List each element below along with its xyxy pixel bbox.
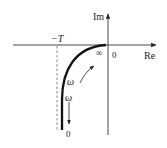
minus-t-label: −T <box>51 33 65 44</box>
omega-label-lower: ω <box>65 92 72 103</box>
im-axis-label: Im <box>93 11 104 22</box>
re-axis-label: Re <box>144 50 156 61</box>
infinity-label: ∞ <box>96 48 102 58</box>
origin-label: 0 <box>112 50 117 60</box>
direction-arrow-upper <box>80 66 94 83</box>
nyquist-diagram: Im Re 0 −T ∞ ω ω 0 <box>0 0 167 148</box>
zero-frequency-label: 0 <box>66 129 71 139</box>
omega-label-upper: ω <box>67 76 74 87</box>
